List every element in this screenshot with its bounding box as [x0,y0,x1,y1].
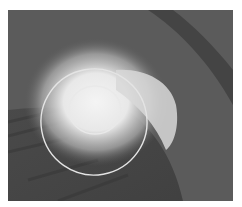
photo-scene [8,10,233,201]
photo [8,10,233,201]
